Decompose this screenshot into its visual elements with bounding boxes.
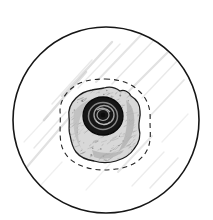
figure-panel: (a) xyxy=(0,0,213,220)
figure-illustration xyxy=(0,0,213,220)
dark-concentric-core xyxy=(83,97,123,135)
